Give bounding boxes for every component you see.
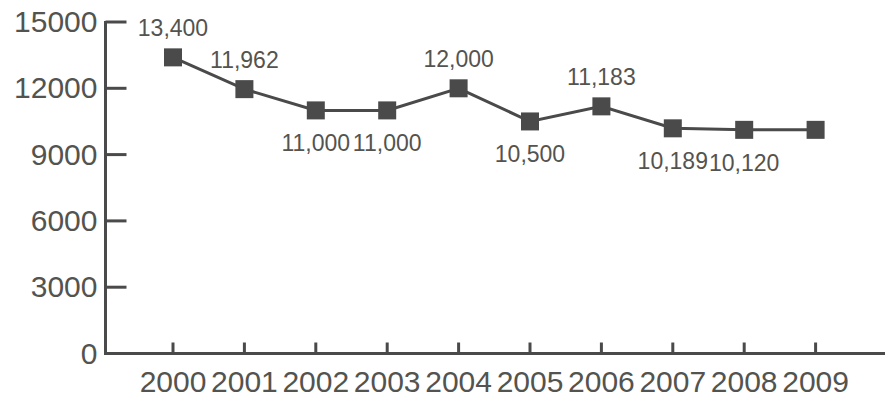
data-point-marker [592, 97, 610, 115]
data-point-marker [807, 121, 825, 139]
x-axis-tick-label: 2004 [419, 367, 499, 397]
x-axis-tick-label: 2007 [633, 367, 713, 397]
x-axis-tick-label: 2008 [704, 367, 784, 397]
y-axis-tick-label: 9000 [31, 140, 98, 170]
y-axis-tick-marks [106, 22, 127, 287]
y-axis-tick-label: 12000 [14, 73, 97, 103]
data-point-marker [378, 101, 396, 119]
data-point-marker [307, 101, 325, 119]
x-axis-tick-label: 2006 [561, 367, 641, 397]
x-axis-tick-label: 2009 [776, 367, 856, 397]
data-point-marker [735, 121, 753, 139]
data-point-marker [664, 119, 682, 137]
x-axis-tick-label: 2002 [276, 367, 356, 397]
line-chart: 15000120009000600030000 2000200120022003… [0, 0, 891, 403]
data-value-label: 10,500 [475, 143, 585, 166]
x-axis-tick-label: 2001 [204, 367, 284, 397]
data-point-marker [164, 48, 182, 66]
data-value-label: 11,000 [332, 132, 442, 155]
y-axis-tick-label: 3000 [31, 272, 98, 302]
data-value-label: 13,400 [118, 17, 228, 40]
data-value-label: 11,962 [189, 49, 299, 72]
y-axis-tick-label: 15000 [14, 7, 97, 37]
data-point-marker [521, 112, 539, 130]
x-axis-tick-label: 2005 [490, 367, 570, 397]
x-axis-tick-label: 2000 [133, 367, 213, 397]
y-axis-tick-label: 0 [81, 339, 98, 369]
data-value-label: 10,120 [689, 152, 799, 175]
x-axis-tick-label: 2003 [347, 367, 427, 397]
data-value-label: 12,000 [404, 48, 514, 71]
y-axis-tick-label: 6000 [31, 206, 98, 236]
data-point-marker [235, 80, 253, 98]
data-value-label: 11,183 [546, 66, 656, 89]
data-point-marker [450, 79, 468, 97]
x-axis-tick-marks [173, 343, 816, 354]
